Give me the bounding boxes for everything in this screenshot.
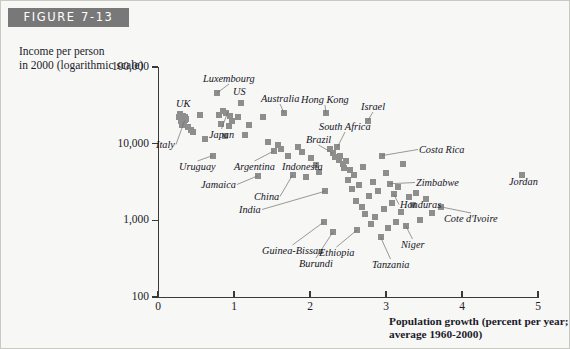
data-point (322, 188, 328, 194)
data-point (393, 219, 399, 225)
point-label: Jamaica (201, 179, 236, 190)
x-tick-label: 3 (374, 300, 398, 312)
data-point (387, 181, 393, 187)
point-label: Hong Kong (301, 94, 349, 105)
point-label: UK (176, 98, 190, 109)
y-tick-label: 100,000 (87, 60, 149, 72)
data-point (214, 90, 220, 96)
data-point (379, 153, 385, 159)
data-point (285, 153, 291, 159)
data-point (218, 121, 224, 127)
data-point (238, 100, 244, 106)
point-label: Japan (209, 129, 234, 140)
data-point (356, 182, 362, 188)
y-tick-label: 10,000 (87, 137, 149, 149)
point-label: Uruguay (179, 161, 216, 172)
data-point (278, 146, 284, 152)
x-tick-label: 2 (298, 300, 322, 312)
data-point (246, 122, 252, 128)
data-point (182, 114, 188, 120)
point-label: China (254, 191, 279, 202)
point-label: Zimbabwe (416, 177, 459, 188)
point-label: Jordan (509, 176, 538, 187)
data-point (378, 234, 384, 240)
data-point (235, 114, 241, 120)
point-label: India (239, 204, 261, 215)
data-point (354, 227, 360, 233)
y-tick-label: 100 (87, 290, 149, 302)
data-point (385, 225, 391, 231)
data-point (391, 191, 397, 197)
data-point (351, 172, 357, 178)
data-point (362, 211, 368, 217)
x-tick-label: 4 (450, 300, 474, 312)
point-label: US (233, 86, 246, 97)
data-point (372, 214, 378, 220)
data-point (429, 210, 435, 216)
point-label: Argentina (234, 161, 275, 172)
point-label: Italy (156, 139, 175, 150)
data-point (197, 112, 203, 118)
data-point (368, 221, 374, 227)
data-point (255, 173, 261, 179)
point-label: Indonesia (282, 161, 323, 172)
data-point (202, 136, 208, 142)
data-point (299, 149, 305, 155)
data-point (383, 170, 389, 176)
x-tick-label: 5 (526, 300, 550, 312)
x-tick-label: 0 (146, 300, 170, 312)
x-tick-label: 1 (222, 300, 246, 312)
point-label: Brazil (306, 134, 331, 145)
data-point (343, 158, 349, 164)
x-axis-title: Population growth (percent per year; ave… (389, 315, 568, 341)
data-point (395, 184, 401, 190)
data-point (334, 144, 340, 150)
data-point (349, 186, 355, 192)
data-point (271, 148, 277, 154)
figure-number-badge: FIGURE 7-13 (8, 8, 129, 27)
point-label: Tanzania (372, 259, 409, 270)
point-label: Costa Rica (419, 144, 464, 155)
figure-frame: FIGURE 7-13 Income per person in 2000 (l… (0, 0, 570, 349)
data-point (321, 219, 327, 225)
data-point (181, 120, 187, 126)
point-label: Cote d'Ivoire (444, 213, 498, 224)
data-point (242, 132, 248, 138)
point-label: Israel (361, 101, 385, 112)
point-label: Honduras (400, 199, 441, 210)
point-label: Burundi (299, 258, 333, 269)
point-label: Guinea-Bissau (262, 245, 323, 256)
point-label: Niger (401, 239, 424, 250)
data-point (403, 223, 409, 229)
data-point (260, 114, 266, 120)
data-point (303, 174, 309, 180)
data-point (330, 229, 336, 235)
data-point (413, 190, 419, 196)
data-point (417, 217, 423, 223)
point-label: Ethiopia (319, 247, 354, 258)
y-tick-label: 1,000 (87, 213, 149, 225)
data-point (210, 153, 216, 159)
data-point (375, 188, 381, 194)
data-point (359, 204, 365, 210)
data-point (281, 110, 287, 116)
data-point (381, 206, 387, 212)
data-point (265, 139, 271, 145)
data-point (360, 164, 366, 170)
data-point (366, 193, 372, 199)
data-point (323, 110, 329, 116)
data-point (400, 161, 406, 167)
data-point (190, 129, 196, 135)
point-label: Luxembourg (203, 73, 255, 84)
data-point (370, 179, 376, 185)
data-point (389, 200, 395, 206)
point-label: Australia (261, 93, 299, 104)
data-point (290, 172, 296, 178)
point-label: South Africa (319, 121, 371, 132)
